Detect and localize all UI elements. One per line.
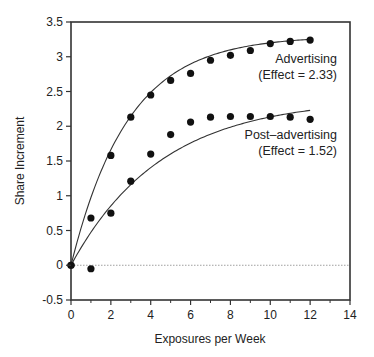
post-advertising-point <box>167 131 174 138</box>
x-tick-label: 10 <box>264 308 278 322</box>
series-annotations: Advertising (Effect = 2.33) Post–adverti… <box>245 52 337 158</box>
y-tick-label: 0.5 <box>46 224 63 238</box>
advertising-point <box>227 52 234 59</box>
post-advertising-point <box>227 113 234 120</box>
y-tick-label: 2 <box>56 119 63 133</box>
y-tick-label: 3.5 <box>46 15 63 29</box>
x-axis-label: Exposures per Week <box>154 332 266 346</box>
advertising-label: Advertising <box>275 52 337 66</box>
advertising-point <box>267 40 274 47</box>
y-axis-label: Share Increment <box>13 116 27 205</box>
advertising-point <box>247 47 254 54</box>
post-advertising-point <box>267 113 274 120</box>
advertising-point <box>287 38 294 45</box>
advertising-point <box>87 214 94 221</box>
y-tick-label: 3 <box>56 50 63 64</box>
post-advertising-point <box>127 178 134 185</box>
y-tick-label: 2.5 <box>46 85 63 99</box>
post-advertising-point <box>107 210 114 217</box>
advertising-point <box>107 152 114 159</box>
post-advertising-point <box>87 265 94 272</box>
post-advertising-point <box>187 118 194 125</box>
y-tick-label: -0.5 <box>42 293 63 307</box>
post-advertising-effect-label: (Effect = 1.52) <box>258 144 337 158</box>
post-advertising-point <box>307 116 314 123</box>
x-tick-label: 6 <box>187 308 194 322</box>
advertising-point <box>147 91 154 98</box>
x-tick-label: 0 <box>68 308 75 322</box>
x-tick-label: 4 <box>147 308 154 322</box>
x-tick-label: 2 <box>108 308 115 322</box>
post-advertising-point <box>247 113 254 120</box>
advertising-point <box>167 77 174 84</box>
post-advertising-label: Post–advertising <box>245 128 337 142</box>
y-tick-label: 1 <box>56 189 63 203</box>
chart-canvas: 02468101214 -0.500.511.522.533.5 Exposur… <box>0 0 374 357</box>
advertising-effect-label: (Effect = 2.33) <box>258 68 337 82</box>
advertising-point <box>207 57 214 64</box>
post-advertising-point <box>147 150 154 157</box>
x-tick-label: 8 <box>227 308 234 322</box>
post-advertising-point <box>287 114 294 121</box>
x-axis-ticks: 02468101214 <box>68 300 357 322</box>
y-tick-label: 1.5 <box>46 154 63 168</box>
x-tick-label: 14 <box>343 308 357 322</box>
advertising-point <box>127 114 134 121</box>
y-tick-label: 0 <box>56 258 63 272</box>
advertising-point <box>307 36 314 43</box>
x-tick-label: 12 <box>303 308 317 322</box>
y-axis-ticks: -0.500.511.522.533.5 <box>42 15 71 307</box>
post-advertising-point <box>207 114 214 121</box>
advertising-point <box>187 70 194 77</box>
